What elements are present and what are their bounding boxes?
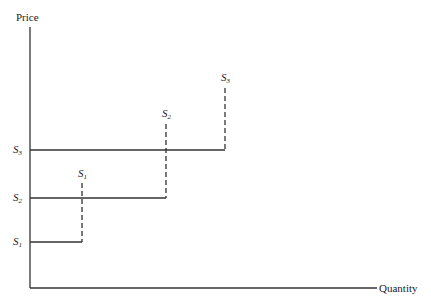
price-label-s2: S2: [13, 191, 23, 205]
price-label-s1: S1: [13, 235, 22, 249]
supply-label-s3: S3: [221, 71, 231, 85]
supply-step-diagram: Price Quantity S1 S2 S3 S1 S2 S3: [0, 0, 431, 308]
supply-label-s2: S2: [162, 107, 172, 121]
y-axis-label: Price: [16, 11, 39, 23]
price-label-s3: S3: [13, 143, 23, 157]
supply-label-s1: S1: [78, 167, 87, 181]
x-axis-label: Quantity: [379, 282, 418, 294]
